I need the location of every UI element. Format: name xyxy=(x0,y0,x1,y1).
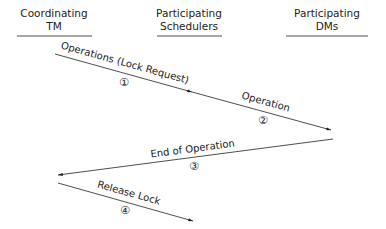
participant-tm-line2: TM xyxy=(45,20,61,32)
participant-schedulers: Participating Schedulers xyxy=(156,7,222,36)
participant-dms-line1: Participating xyxy=(294,7,360,19)
message-3: End of Operation ③ xyxy=(58,138,333,175)
message-2-label: Operation xyxy=(240,90,291,114)
sequence-diagram: Coordinating TM Participating Schedulers… xyxy=(0,0,386,229)
participant-dms-line2: DMs xyxy=(316,20,339,32)
message-2: Operation ② xyxy=(192,90,331,130)
message-3-label: End of Operation xyxy=(150,138,235,160)
participant-tm: Coordinating TM xyxy=(17,7,92,36)
participant-schedulers-line2: Schedulers xyxy=(160,20,218,32)
message-4-label: Release Lock xyxy=(96,179,162,207)
message-2-step: ② xyxy=(258,114,268,127)
participant-dms: Participating DMs xyxy=(286,7,368,36)
message-3-step: ③ xyxy=(189,160,199,173)
message-4-step: ④ xyxy=(120,204,130,217)
message-1: Operations (Lock Request) ① xyxy=(55,40,192,92)
message-4: Release Lock ④ xyxy=(58,179,193,221)
participant-schedulers-line1: Participating xyxy=(156,7,222,19)
participant-tm-line1: Coordinating xyxy=(20,7,87,19)
message-1-step: ① xyxy=(119,76,129,89)
